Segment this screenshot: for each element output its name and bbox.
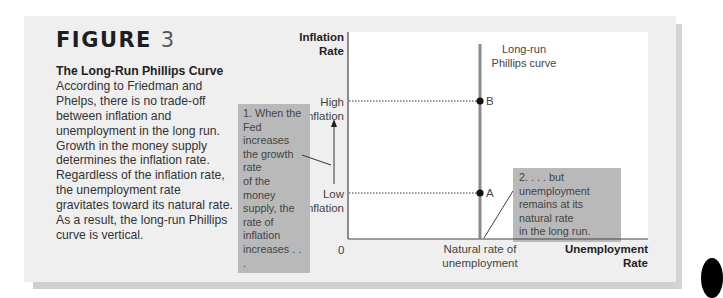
note1-leader xyxy=(302,155,331,165)
page-edge-marker xyxy=(701,258,723,298)
note2-leader xyxy=(484,191,513,238)
point-a xyxy=(476,189,483,196)
up-arrow-icon xyxy=(331,119,337,127)
point-b xyxy=(476,97,483,104)
